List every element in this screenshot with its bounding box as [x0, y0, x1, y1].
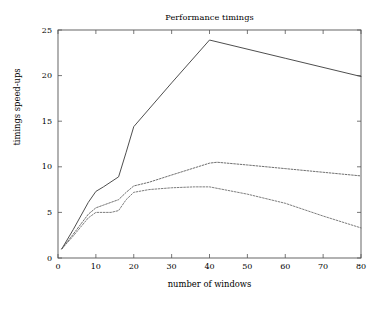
- x-tick-label: 10: [76, 262, 116, 271]
- y-axis-label: timings speed-ups: [9, 47, 25, 167]
- x-tick-label: 20: [114, 262, 154, 271]
- figure-canvas: Performance timings 01020304050607080051…: [0, 0, 382, 309]
- x-tick-label: 50: [227, 262, 267, 271]
- y-tick-label: 0: [20, 254, 52, 263]
- y-tick-label: 25: [20, 26, 52, 35]
- axes-box: [58, 30, 361, 258]
- y-tick-label: 5: [20, 208, 52, 217]
- x-tick-label: 30: [152, 262, 192, 271]
- x-tick-label: 70: [303, 262, 343, 271]
- x-axis-label: number of windows: [58, 279, 361, 289]
- x-tick-label: 80: [341, 262, 381, 271]
- x-tick-label: 40: [190, 262, 230, 271]
- axes-border: [58, 30, 361, 258]
- x-tick-label: 0: [38, 262, 78, 271]
- x-tick-label: 60: [265, 262, 305, 271]
- y-axis-label-wrapper: timings speed-ups: [9, 47, 25, 167]
